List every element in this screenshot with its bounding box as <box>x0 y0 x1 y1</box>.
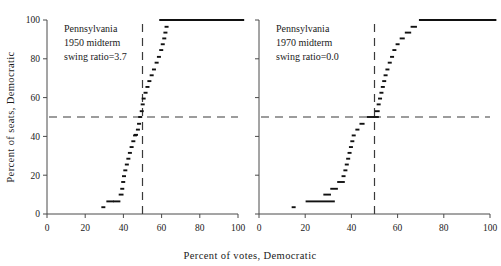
seats-votes-figure: 020406080100020406080100Pennsylvania1950… <box>0 0 501 266</box>
x-tick-label: 60 <box>393 223 403 233</box>
x-tick-label: 0 <box>257 223 262 233</box>
x-tick-label: 100 <box>483 223 498 233</box>
x-tick-label: 20 <box>300 223 310 233</box>
y-tick-label: 100 <box>26 15 41 25</box>
panel-pennsylvania-1970: 020406080100Pennsylvania1970 midtermswin… <box>255 20 497 233</box>
chart-canvas: 020406080100020406080100Pennsylvania1950… <box>0 0 501 266</box>
panel-annotation-line: 1950 midterm <box>64 37 121 48</box>
panel-pennsylvania-1950: 020406080100020406080100Pennsylvania1950… <box>26 15 246 233</box>
y-axis-title: Percent of seats, Democratic <box>5 51 16 182</box>
x-tick-label: 80 <box>195 223 205 233</box>
panel-annotation-line: swing ratio=0.0 <box>276 51 339 62</box>
y-tick-label: 60 <box>31 93 41 103</box>
x-tick-label: 0 <box>45 223 50 233</box>
x-tick-label: 80 <box>439 223 449 233</box>
y-tick-label: 40 <box>31 132 41 142</box>
x-tick-label: 60 <box>157 223 167 233</box>
x-axis-title: Percent of votes, Democratic <box>183 250 316 261</box>
panel-annotation-line: swing ratio=3.7 <box>64 51 127 62</box>
y-tick-label: 0 <box>35 209 40 219</box>
panel-annotation-line: Pennsylvania <box>64 23 118 34</box>
x-tick-label: 20 <box>80 223 90 233</box>
panel-annotation-line: Pennsylvania <box>276 23 330 34</box>
y-tick-label: 20 <box>31 171 41 181</box>
x-tick-label: 100 <box>231 223 246 233</box>
panel-annotation-line: 1970 midterm <box>276 37 333 48</box>
x-tick-label: 40 <box>119 223 129 233</box>
x-tick-label: 40 <box>347 223 357 233</box>
y-tick-label: 80 <box>31 54 41 64</box>
